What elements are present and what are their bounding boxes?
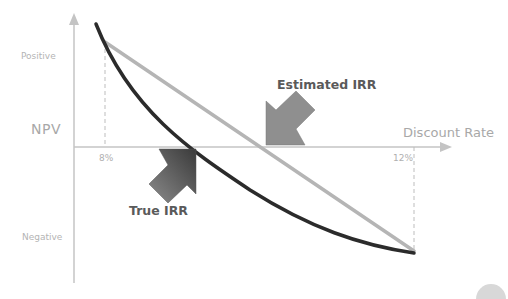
x-axis-label: Discount Rate (403, 125, 494, 140)
estimated-irr-label: Estimated IRR (277, 77, 376, 92)
y-axis-arrow-icon (69, 13, 79, 25)
y-axis (69, 13, 79, 283)
estimated-irr-arrow-icon (266, 91, 315, 145)
tick-12-percent: 12% (393, 153, 413, 163)
y-label-positive: Positive (21, 51, 56, 61)
true-irr-arrow-icon (149, 149, 196, 203)
irr-diagram (0, 0, 508, 299)
corner-mark (476, 284, 506, 299)
y-axis-label: NPV (31, 121, 61, 137)
x-axis-arrow-icon (440, 142, 452, 152)
y-label-negative: Negative (22, 232, 62, 242)
true-irr-label: True IRR (129, 203, 188, 218)
tick-8-percent: 8% (99, 153, 113, 163)
